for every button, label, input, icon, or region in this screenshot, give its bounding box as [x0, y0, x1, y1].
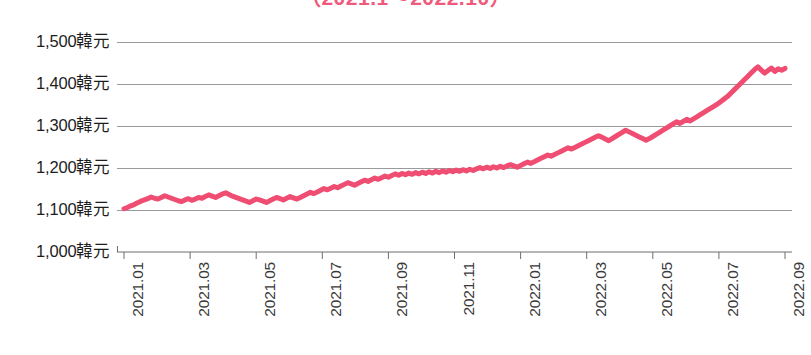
x-axis-tick-label: 2022.09 [791, 262, 807, 317]
x-axis-tick-label: 2021.01 [130, 262, 146, 317]
exchange-rate-chart: （2021.1～2022.10） 1,500韓元 1,400韓元 1,300韓元… [0, 0, 811, 355]
x-axis-tick-label: 2022.07 [725, 262, 741, 317]
x-axis: 2021.012021.032021.052021.072021.092021.… [0, 0, 811, 355]
x-axis-tick-label: 2022.03 [593, 262, 609, 317]
x-axis-tick-label: 2022.01 [527, 262, 543, 317]
x-axis-tick-label: 2021.03 [196, 262, 212, 317]
x-axis-tick-label: 2022.05 [659, 262, 675, 317]
x-axis-tick-label: 2021.05 [262, 262, 278, 317]
x-axis-tick-label: 2021.07 [328, 262, 344, 317]
x-axis-tick-label: 2021.09 [394, 262, 410, 317]
x-axis-tick-label: 2021.11 [461, 262, 477, 315]
